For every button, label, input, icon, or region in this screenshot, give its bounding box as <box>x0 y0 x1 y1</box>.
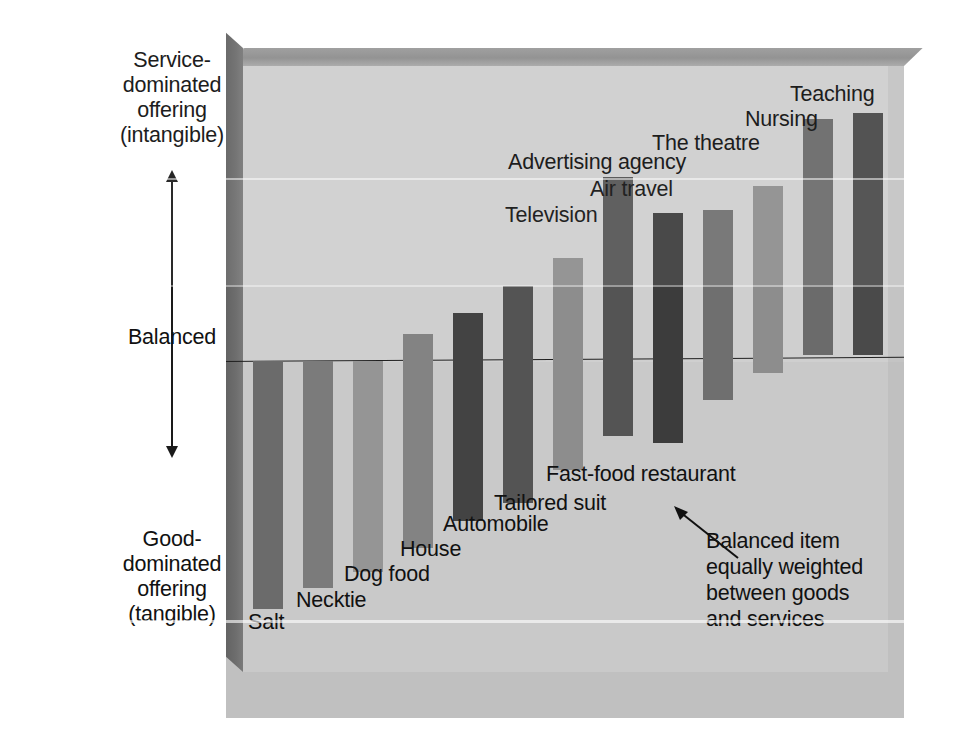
arrow-up-icon <box>166 170 178 182</box>
annotation-balanced-item: Balanced item equally weighted between g… <box>706 528 921 632</box>
bar-label-television: Television <box>505 203 597 227</box>
bar-nursing <box>803 119 833 355</box>
bar-the-theatre <box>753 186 783 373</box>
bar-label-dog-food: Dog food <box>344 562 430 586</box>
bar-label-nursing: Nursing <box>745 107 818 131</box>
chart-top-bevel <box>226 48 923 66</box>
arrow-down-icon <box>166 446 178 458</box>
bar-air-travel <box>653 213 683 443</box>
bar-tailored-suit <box>503 286 533 503</box>
bar-advertising-agency <box>703 210 733 400</box>
bar-house <box>403 334 433 548</box>
bar-television <box>603 177 633 437</box>
bar-label-air-travel: Air travel <box>590 177 673 201</box>
bar-automobile <box>453 313 483 521</box>
bar-fast-food-restaurant <box>553 258 583 469</box>
continuum-axis-line <box>171 176 173 454</box>
bar-label-salt: Salt <box>248 610 284 634</box>
bar-salt <box>253 361 283 609</box>
bar-necktie <box>303 361 333 588</box>
bar-dog-food <box>353 361 383 572</box>
bar-teaching <box>853 113 883 355</box>
bar-label-automobile: Automobile <box>443 512 549 536</box>
chart-figure: Service- dominated offering (intangible)… <box>0 0 964 745</box>
axis-label-service-dominated: Service- dominated offering (intangible) <box>48 48 296 148</box>
axis-label-balanced: Balanced <box>48 325 296 350</box>
bar-label-tailored-suit: Tailored suit <box>494 491 606 515</box>
bar-label-teaching: Teaching <box>790 82 874 106</box>
bar-label-house: House <box>400 537 461 561</box>
bar-label-necktie: Necktie <box>296 588 366 612</box>
bar-label-the-theatre: The theatre <box>652 131 760 155</box>
bar-label-fast-food-restaurant: Fast-food restaurant <box>546 462 736 486</box>
